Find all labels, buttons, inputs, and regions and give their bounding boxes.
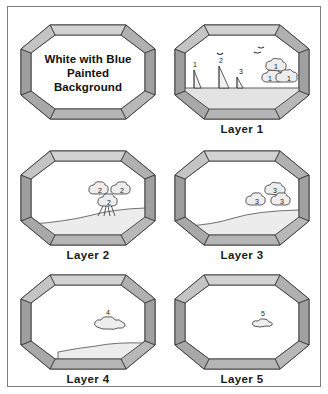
panel-layer-1: 1 2 3 1 1 1 Layer 1 — [172, 22, 312, 122]
octagon-frame: 4 — [18, 272, 158, 372]
cloud-label-3c: 3 — [280, 198, 284, 205]
boat-label-3: 3 — [239, 68, 243, 75]
panel-layer-5: 5 Layer 5 — [172, 272, 312, 372]
panel-layer-4: 4 Layer 4 — [18, 272, 158, 372]
octagon-frame: 2 2 2 — [18, 148, 158, 248]
panel-layer-3: 3 3 3 Layer 3 — [172, 148, 312, 248]
octagon-frame: 1 2 3 1 1 1 — [172, 22, 312, 122]
layer-label-3: Layer 3 — [172, 249, 312, 261]
boat-label-1: 1 — [193, 61, 197, 68]
cloud-label-5: 5 — [261, 310, 265, 317]
title-line-1: White with Blue — [18, 53, 158, 67]
cloud-label-4: 4 — [106, 309, 110, 316]
cloud-label-1a: 1 — [274, 63, 278, 70]
layer-label-5: Layer 5 — [172, 373, 312, 385]
cloud-label-2c: 2 — [107, 199, 111, 206]
octagon-frame: 3 3 3 — [172, 148, 312, 248]
cloud-label-2a: 2 — [98, 187, 102, 194]
layer-label-1: Layer 1 — [172, 123, 312, 135]
title-line-3: Background — [18, 81, 158, 95]
octagon-frame: 5 — [172, 272, 312, 372]
panel-layer-2: 2 2 2 Layer 2 — [18, 148, 158, 248]
cloud-label-1c: 1 — [287, 75, 291, 82]
title-line-2: Painted — [18, 67, 158, 81]
diagram-page: White with Blue Painted Background — [0, 0, 328, 394]
panel-title: White with Blue Painted Background — [18, 22, 158, 122]
cloud-label-1b: 1 — [268, 75, 272, 82]
boat-label-2: 2 — [219, 57, 223, 64]
layer-label-4: Layer 4 — [18, 373, 158, 385]
layer-label-2: Layer 2 — [18, 249, 158, 261]
cloud-label-3b: 3 — [255, 198, 259, 205]
cloud-label-3a: 3 — [273, 187, 277, 194]
cloud-label-2b: 2 — [120, 187, 124, 194]
